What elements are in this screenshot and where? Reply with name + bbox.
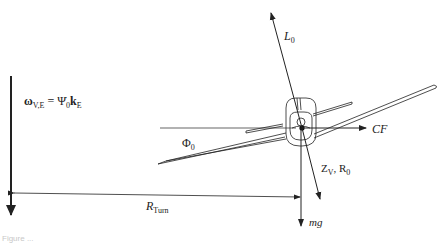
z-force-label: ZV, R0 [321, 163, 350, 177]
weight-label: mg [309, 217, 322, 228]
centrifugal-force-label: CF [372, 123, 387, 135]
left-wing [158, 133, 286, 164]
omega-equation-label: ωV,E = Ψ̇0kE [24, 95, 82, 110]
turn-radius-line [14, 193, 300, 197]
right-stabilizer [313, 102, 352, 116]
left-stabilizer [246, 124, 283, 133]
figure-caption: Figure ... [2, 234, 34, 243]
turn-radius-label: RTurn [146, 200, 169, 215]
bank-angle-label: Φ0 [182, 137, 195, 152]
z-force-vector [302, 128, 320, 199]
lift-label: L0 [284, 30, 295, 45]
